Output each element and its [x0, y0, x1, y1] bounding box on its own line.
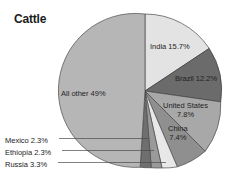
- pie-label-all-other: All other 49%: [61, 89, 106, 98]
- pie-label-china-value: 7.4%: [169, 133, 186, 142]
- pie-label-brazil: Brazil 12.2%: [175, 74, 217, 83]
- pie-label-russia: Russia 3.3%: [5, 160, 47, 169]
- pie-label-india: India 15.7%: [150, 42, 190, 51]
- pie-label-united-states-value: 7.8%: [177, 110, 194, 119]
- pie-label-ethiopia: Ethiopia 2.3%: [5, 148, 51, 157]
- pie-label-mexico: Mexico 2.3%: [5, 136, 48, 145]
- pie-chart-figure: Cattle India 15.7% Brazil 12.2% United S…: [0, 0, 233, 176]
- pie-label-china-name: China: [168, 124, 188, 133]
- pie-label-united-states-name: United States: [163, 101, 208, 110]
- pie-label-china: China 7.4%: [168, 124, 188, 142]
- pie-label-united-states: United States 7.8%: [163, 101, 208, 119]
